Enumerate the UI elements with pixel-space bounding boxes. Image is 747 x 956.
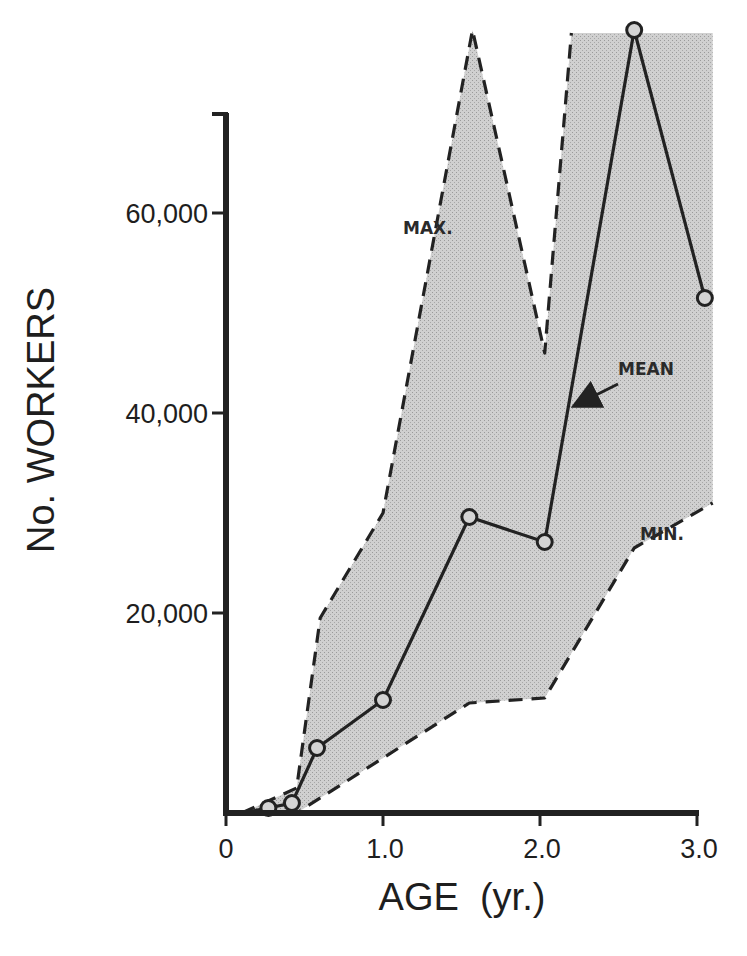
mean-point-marker <box>310 741 325 756</box>
mean-label: MEAN <box>618 359 674 379</box>
x-tick-label: 1.0 <box>366 834 404 864</box>
mean-point-marker <box>627 23 642 38</box>
x-tick-label: 2.0 <box>523 834 561 864</box>
shaded-area <box>242 30 713 813</box>
y-tick-label: 20,000 <box>125 599 208 629</box>
x-axis-title: AGE (yr.) <box>379 876 546 918</box>
min-label: MIN. <box>640 524 684 544</box>
mean-point-marker <box>284 796 299 811</box>
mean-point-marker <box>537 535 552 550</box>
y-tick-label: 40,000 <box>125 399 208 429</box>
y-tick-label: 60,000 <box>125 199 208 229</box>
chart-canvas: 20,00040,00060,00001.02.03.0 MAX. MEAN M… <box>0 0 747 956</box>
min-max-shaded-region <box>242 30 713 813</box>
y-axis-title: No. WORKERS <box>20 287 62 553</box>
x-tick-label: 3.0 <box>680 834 718 864</box>
mean-point-marker <box>376 693 391 708</box>
mean-point-marker <box>697 291 712 306</box>
max-label: MAX. <box>403 218 453 238</box>
x-tick-label: 0 <box>218 834 233 864</box>
mean-point-marker <box>462 510 477 525</box>
